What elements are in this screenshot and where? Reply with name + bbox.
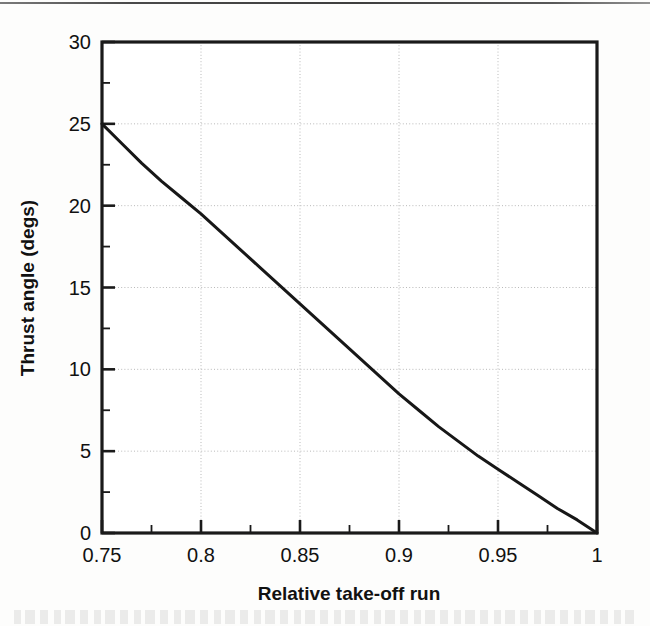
x-tick-label: 0.75 xyxy=(83,544,122,566)
y-axis-title: Thrust angle (degs) xyxy=(17,200,38,376)
chart-svg: 0.750.80.850.90.951 051015202530 Relativ… xyxy=(0,0,650,626)
y-tick-labels: 051015202530 xyxy=(69,31,91,544)
y-tick-label: 20 xyxy=(69,195,91,217)
y-tick-label: 15 xyxy=(69,277,91,299)
x-tick-label: 0.85 xyxy=(281,544,320,566)
y-tick-label: 25 xyxy=(69,113,91,135)
y-tick-label: 10 xyxy=(69,358,91,380)
figure-page: 0.750.80.850.90.951 051015202530 Relativ… xyxy=(0,0,650,626)
chart-figure: 0.750.80.850.90.951 051015202530 Relativ… xyxy=(0,0,650,626)
scan-caption-smudge xyxy=(14,610,634,624)
x-tick-label: 0.95 xyxy=(479,544,518,566)
x-tick-label: 0.8 xyxy=(187,544,215,566)
x-tick-labels: 0.750.80.850.90.951 xyxy=(83,544,603,566)
x-axis-title: Relative take-off run xyxy=(258,583,441,604)
x-tick-label: 1 xyxy=(591,544,602,566)
y-tick-label: 0 xyxy=(80,522,91,544)
y-tick-label: 5 xyxy=(80,440,91,462)
y-tick-label: 30 xyxy=(69,31,91,53)
x-tick-label: 0.9 xyxy=(385,544,413,566)
